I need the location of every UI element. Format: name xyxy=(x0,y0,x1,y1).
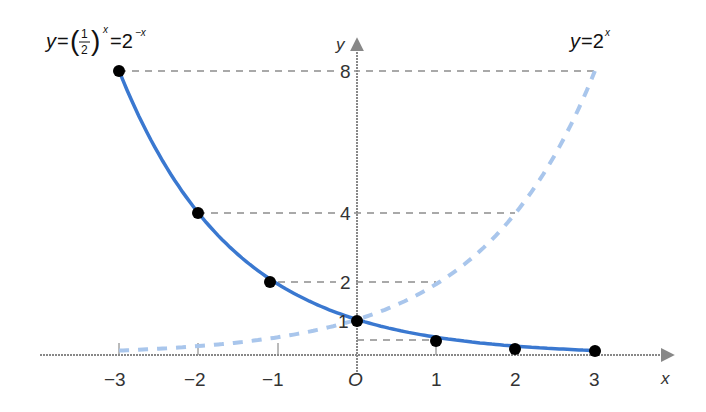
eq-left-paren-close: ) xyxy=(91,25,100,56)
eq-right-exp: x xyxy=(604,27,611,38)
eq-left-frac-num: 1 xyxy=(81,27,88,41)
y-axis-label: y xyxy=(335,35,346,54)
point-0-1 xyxy=(351,315,363,327)
point-m3-8 xyxy=(113,65,125,77)
eq-left-eq2: =2 xyxy=(110,30,133,52)
point-m2-4 xyxy=(192,207,204,219)
point-m1-2 xyxy=(264,276,276,288)
y-tick-2: 2 xyxy=(340,272,351,293)
x-tick-m1: −1 xyxy=(262,369,284,390)
point-1-half xyxy=(430,335,442,347)
eq-right-y: y xyxy=(568,30,581,52)
equation-half-pow-x: y = ( 1 2 ) x =2 −x xyxy=(44,24,147,57)
x-tick-2: 2 xyxy=(510,369,521,390)
point-3-eighth xyxy=(589,345,601,357)
equation-2-pow-x: y =2 x xyxy=(568,27,611,52)
eq-left-equals: = xyxy=(57,30,69,52)
eq-right-eq: =2 xyxy=(581,30,604,52)
x-tick-1: 1 xyxy=(431,369,442,390)
x-tick-m3: −3 xyxy=(104,369,126,390)
x-tick-3: 3 xyxy=(589,369,600,390)
x-axis-label: x xyxy=(660,369,670,388)
eq-left-frac-den: 2 xyxy=(81,43,88,57)
exponential-chart: 8 4 2 1 −3 −2 −1 O 1 2 3 x y y = ( 1 2 )… xyxy=(0,0,706,412)
eq-left-y: y xyxy=(44,30,57,52)
eq-left-paren-open: ( xyxy=(70,25,80,56)
eq-left-exp2: −x xyxy=(135,27,147,38)
origin-label: O xyxy=(348,369,363,390)
y-tick-labels: 8 4 2 1 xyxy=(336,58,354,332)
y-tick-4: 4 xyxy=(340,203,351,224)
x-tick-labels: −3 −2 −1 O 1 2 3 xyxy=(104,369,600,390)
x-tick-m2: −2 xyxy=(184,369,206,390)
point-2-quarter xyxy=(509,343,521,355)
y-tick-8: 8 xyxy=(340,61,351,82)
y-tick-1: 1 xyxy=(338,311,349,332)
eq-left-exp: x xyxy=(102,24,109,35)
